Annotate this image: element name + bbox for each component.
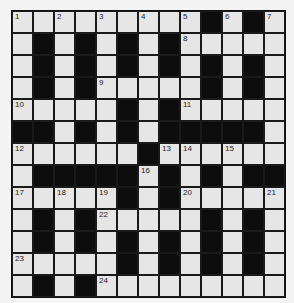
- crossword-cell[interactable]: [75, 253, 96, 275]
- crossword-cell[interactable]: [96, 253, 117, 275]
- crossword-cell[interactable]: 4: [138, 11, 159, 33]
- crossword-cell[interactable]: [222, 77, 243, 99]
- crossword-cell[interactable]: [159, 11, 180, 33]
- crossword-cell[interactable]: [12, 231, 33, 253]
- crossword-cell[interactable]: 17: [12, 187, 33, 209]
- crossword-cell[interactable]: [138, 209, 159, 231]
- crossword-cell[interactable]: [264, 99, 285, 121]
- crossword-cell[interactable]: [54, 55, 75, 77]
- crossword-cell[interactable]: [117, 77, 138, 99]
- crossword-cell[interactable]: [201, 33, 222, 55]
- crossword-cell[interactable]: [75, 143, 96, 165]
- crossword-cell[interactable]: [138, 275, 159, 297]
- crossword-cell[interactable]: [243, 99, 264, 121]
- crossword-cell[interactable]: [54, 231, 75, 253]
- crossword-cell[interactable]: [222, 33, 243, 55]
- crossword-cell[interactable]: [159, 275, 180, 297]
- crossword-cell[interactable]: [264, 55, 285, 77]
- crossword-cell[interactable]: 20: [180, 187, 201, 209]
- crossword-cell[interactable]: [54, 209, 75, 231]
- crossword-cell[interactable]: 10: [12, 99, 33, 121]
- crossword-cell[interactable]: [54, 99, 75, 121]
- crossword-cell[interactable]: 24: [96, 275, 117, 297]
- crossword-cell[interactable]: [180, 275, 201, 297]
- crossword-cell[interactable]: [138, 33, 159, 55]
- crossword-cell[interactable]: [222, 209, 243, 231]
- crossword-cell[interactable]: [222, 55, 243, 77]
- crossword-cell[interactable]: [54, 121, 75, 143]
- crossword-cell[interactable]: [159, 77, 180, 99]
- crossword-cell[interactable]: [201, 143, 222, 165]
- crossword-cell[interactable]: 23: [12, 253, 33, 275]
- crossword-cell[interactable]: [243, 187, 264, 209]
- crossword-cell[interactable]: [222, 253, 243, 275]
- crossword-cell[interactable]: [201, 99, 222, 121]
- crossword-cell[interactable]: 5: [180, 11, 201, 33]
- crossword-cell[interactable]: [264, 121, 285, 143]
- crossword-cell[interactable]: 11: [180, 99, 201, 121]
- crossword-cell[interactable]: [117, 11, 138, 33]
- crossword-cell[interactable]: [201, 187, 222, 209]
- crossword-cell[interactable]: [138, 77, 159, 99]
- crossword-cell[interactable]: [54, 77, 75, 99]
- crossword-cell[interactable]: [243, 143, 264, 165]
- crossword-cell[interactable]: [180, 253, 201, 275]
- crossword-cell[interactable]: 8: [180, 33, 201, 55]
- crossword-cell[interactable]: [12, 209, 33, 231]
- crossword-cell[interactable]: [96, 99, 117, 121]
- crossword-cell[interactable]: [264, 77, 285, 99]
- crossword-cell[interactable]: [222, 99, 243, 121]
- crossword-cell[interactable]: [180, 165, 201, 187]
- crossword-cell[interactable]: [222, 231, 243, 253]
- crossword-cell[interactable]: [96, 121, 117, 143]
- crossword-cell[interactable]: [180, 209, 201, 231]
- crossword-cell[interactable]: [117, 143, 138, 165]
- crossword-cell[interactable]: [180, 55, 201, 77]
- crossword-cell[interactable]: 6: [222, 11, 243, 33]
- crossword-cell[interactable]: [138, 253, 159, 275]
- crossword-cell[interactable]: [54, 143, 75, 165]
- crossword-cell[interactable]: [138, 55, 159, 77]
- crossword-cell[interactable]: 9: [96, 77, 117, 99]
- crossword-cell[interactable]: [75, 11, 96, 33]
- crossword-cell[interactable]: 12: [12, 143, 33, 165]
- crossword-cell[interactable]: [264, 209, 285, 231]
- crossword-cell[interactable]: [264, 253, 285, 275]
- crossword-cell[interactable]: [12, 77, 33, 99]
- crossword-cell[interactable]: [264, 33, 285, 55]
- crossword-cell[interactable]: 13: [159, 143, 180, 165]
- crossword-cell[interactable]: [138, 187, 159, 209]
- crossword-cell[interactable]: [12, 55, 33, 77]
- crossword-cell[interactable]: 22: [96, 209, 117, 231]
- crossword-cell[interactable]: [54, 33, 75, 55]
- crossword-cell[interactable]: [264, 143, 285, 165]
- crossword-cell[interactable]: [33, 99, 54, 121]
- crossword-cell[interactable]: 7: [264, 11, 285, 33]
- crossword-cell[interactable]: [117, 275, 138, 297]
- crossword-cell[interactable]: [96, 55, 117, 77]
- crossword-cell[interactable]: 19: [96, 187, 117, 209]
- crossword-cell[interactable]: 3: [96, 11, 117, 33]
- crossword-cell[interactable]: [96, 231, 117, 253]
- crossword-cell[interactable]: 15: [222, 143, 243, 165]
- crossword-cell[interactable]: 14: [180, 143, 201, 165]
- crossword-cell[interactable]: [12, 33, 33, 55]
- crossword-cell[interactable]: [138, 99, 159, 121]
- crossword-cell[interactable]: [96, 33, 117, 55]
- crossword-cell[interactable]: 1: [12, 11, 33, 33]
- crossword-cell[interactable]: 16: [138, 165, 159, 187]
- crossword-cell[interactable]: [201, 275, 222, 297]
- crossword-cell[interactable]: [138, 121, 159, 143]
- crossword-cell[interactable]: [222, 275, 243, 297]
- crossword-cell[interactable]: [264, 231, 285, 253]
- crossword-cell[interactable]: [117, 209, 138, 231]
- crossword-cell[interactable]: [75, 187, 96, 209]
- crossword-cell[interactable]: [222, 187, 243, 209]
- crossword-cell[interactable]: 21: [264, 187, 285, 209]
- crossword-cell[interactable]: [12, 275, 33, 297]
- crossword-cell[interactable]: [264, 275, 285, 297]
- crossword-cell[interactable]: [96, 143, 117, 165]
- crossword-cell[interactable]: [75, 99, 96, 121]
- crossword-cell[interactable]: [33, 253, 54, 275]
- crossword-cell[interactable]: [180, 231, 201, 253]
